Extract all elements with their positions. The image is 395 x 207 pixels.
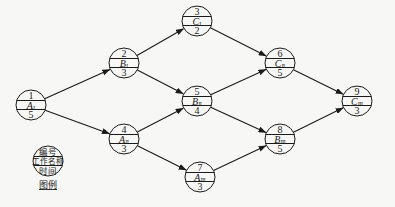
arrow-3-to-6 bbox=[210, 28, 266, 56]
node-3: 3CⅠ2 bbox=[182, 6, 212, 36]
node-duration: 3 bbox=[355, 105, 360, 116]
arrow-5-to-8 bbox=[211, 107, 266, 132]
legend: 编号 工作名称 时间 图例 bbox=[32, 146, 64, 190]
node-1: 1AⅠ5 bbox=[16, 90, 46, 120]
node-8: 8BⅢ5 bbox=[265, 124, 295, 154]
node-6: 6CⅡ5 bbox=[265, 48, 295, 78]
node-5: 5BⅡ4 bbox=[182, 86, 212, 116]
arrow-6-to-9 bbox=[293, 70, 343, 95]
legend-caption: 图例 bbox=[39, 179, 57, 190]
node-duration: 5 bbox=[29, 109, 34, 120]
node-9: 9CⅢ3 bbox=[342, 86, 372, 116]
arrow-4-to-7 bbox=[137, 146, 186, 170]
node-4: 4AⅡ3 bbox=[109, 124, 139, 154]
node-7: 7AⅢ3 bbox=[185, 162, 215, 192]
arrow-4-to-5 bbox=[137, 108, 183, 132]
node-duration: 5 bbox=[278, 143, 283, 154]
node-duration: 2 bbox=[195, 25, 200, 36]
node-duration: 3 bbox=[122, 67, 127, 78]
arrow-2-to-3 bbox=[137, 29, 184, 56]
network-diagram: 1AⅠ52BⅠ33CⅠ24AⅡ35BⅡ46CⅡ57AⅢ38BⅢ59CⅢ3 编号 … bbox=[0, 0, 395, 207]
node-duration: 5 bbox=[278, 67, 283, 78]
legend-time-label: 时间 bbox=[39, 166, 57, 176]
node-duration: 4 bbox=[195, 105, 200, 116]
node-2: 2BⅠ3 bbox=[109, 48, 139, 78]
arrow-5-to-6 bbox=[211, 69, 266, 94]
diagram-canvas: 1AⅠ52BⅠ33CⅠ24AⅡ35BⅡ46CⅡ57AⅢ38BⅢ59CⅢ3 编号 … bbox=[0, 0, 395, 207]
arrow-1-to-2 bbox=[45, 69, 110, 98]
arrow-2-to-5 bbox=[137, 70, 183, 94]
arrow-7-to-8 bbox=[214, 146, 266, 171]
legend-work-name-label: 工作名称 bbox=[32, 156, 64, 166]
nodes-layer: 1AⅠ52BⅠ33CⅠ24AⅡ35BⅡ46CⅡ57AⅢ38BⅢ59CⅢ3 bbox=[16, 6, 372, 192]
arrow-8-to-9 bbox=[293, 108, 343, 133]
arrow-1-to-4 bbox=[45, 110, 109, 134]
node-duration: 3 bbox=[198, 181, 203, 192]
node-duration: 3 bbox=[122, 143, 127, 154]
